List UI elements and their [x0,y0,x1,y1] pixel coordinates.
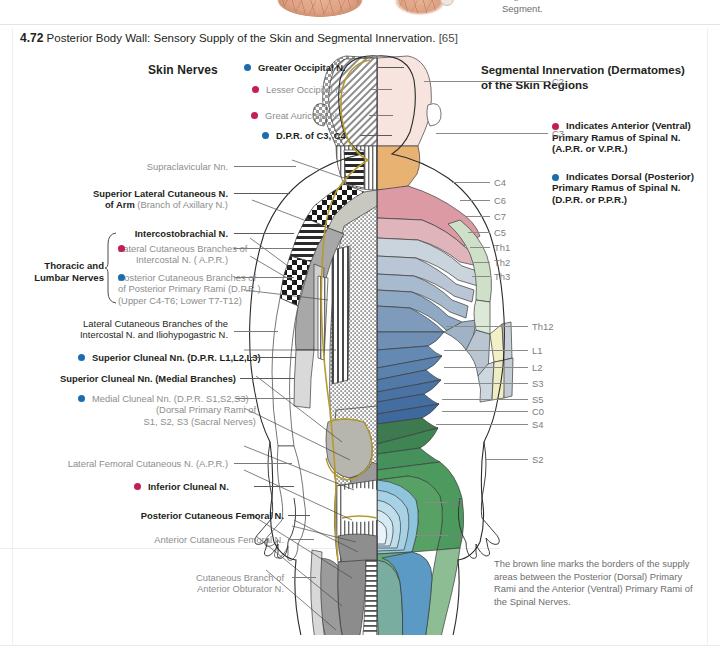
brown-line-note: The brown line marks the borders of the … [494,558,706,608]
ventral-dot [134,483,141,490]
leader-inferior-cluneal [254,486,294,487]
figure-number: 4.72 [20,31,43,45]
dermatome-label-c4: C4 [494,177,506,188]
label-inferior-cluneal-n: Inferior Cluneal N. [134,481,254,492]
dermatome-leader-s4 [436,424,528,425]
dermatome-leader-l4 [416,535,448,536]
dermatome-leader-c4 [452,182,490,183]
legend-item-dorsal: Indicates Dorsal (Posterior) Primary Ram… [552,171,712,206]
dermatome-label-th12: Th12 [532,321,553,332]
dermatome-label-th3: Th3 [494,271,510,282]
previous-figure-caption: Segments Below the 7th Thoracic Segment. [502,0,712,15]
leader-great-auricular [369,115,393,116]
dermatome-label-l1: L1 [532,345,542,356]
dermatome-leader-l1 [444,350,528,351]
dermatome-label-s2: S2 [532,454,543,465]
dermatome-leader-s3 [444,383,528,384]
label-lateral-femoral-cutaneous-n: Lateral Femoral Cutaneous N. (A.P.R.) [28,458,228,469]
leader-lateral-cut-intercostal [234,248,292,249]
dermatome-leader-c2 [424,81,548,82]
figure-title: Posterior Body Wall: Sensory Supply of t… [47,32,436,44]
label-lateral-cutaneous-branches-intercostal: Lateral Cutaneous Branches of Intercosta… [118,243,228,266]
label-cutaneous-branch-anterior-obturator-n: Cutaneous Branch of Anterior Obturator N… [28,572,284,595]
label-superior-lateral-cutaneous-n-of-arm: Superior Lateral Cutaneous N. of Arm (Br… [28,188,228,211]
dermatome-label-s5: S5 [532,394,543,405]
label-intercostobrachial-n: Intercostobrachial N. [28,228,228,239]
skin-nerves-heading: Skin Nerves [148,63,218,77]
label-sla-line2: of Arm (Branch of Axillary N.) [28,199,228,210]
page-frame-left [12,28,13,646]
label-superior-cluneal-nn-dpr: Superior Cluneal Nn. (D.P.R. L1,L2,L3) [78,352,258,363]
previous-caption-line2: Segment. [502,3,712,16]
leader-posterior-cut-femoral [288,515,310,516]
leader-iliohypogastric [234,331,278,332]
dermatome-label-s4: S4 [532,419,543,430]
label-greater-occipital-n: Greater Occipital N. [244,62,394,73]
dermatome-leader-c3 [436,133,548,134]
thoracic-lumbar-brace [104,232,118,308]
dermatome-label-l4: L4 [452,530,462,541]
dermatome-legend: Indicates Anterior (Ventral) Primary Ram… [552,120,712,218]
dermatome-label-c7: C7 [494,211,506,222]
leader-obturator [292,577,316,578]
dermatome-leader-th12 [446,326,528,327]
leader-posterior-cut-branches [234,277,294,278]
leader-superior-cluneal-medial [240,378,294,379]
dermatome-leader-l2 [444,367,528,368]
dermatome-label-c0: C0 [532,406,544,417]
figure-reference: [65] [439,32,458,44]
dermatome-leader-s5 [442,399,528,400]
label-supraclavicular-nn: Supraclavicular Nn. [28,161,228,172]
leader-lateral-femoral-cut [234,463,292,464]
dermatome-leader-c0 [442,411,528,412]
dermatome-leader-th1 [470,247,490,248]
dermatome-label-c2: C2 [552,76,564,87]
dermatome-label-s3: S3 [532,378,543,389]
dermatome-leader-th3 [472,276,490,277]
dermatome-leader-c5 [468,232,490,233]
ventral-dot [252,86,259,93]
footer-divider [0,645,720,646]
leader-dpr-c3-c4 [360,135,392,136]
leader-superior-lateral-cutaneous [234,193,290,194]
dorsal-dot [262,132,269,139]
leader-superior-cluneal [250,357,296,358]
label-posterior-cutaneous-branches-dpr: Posterior Cutaneous Branches of of Poste… [118,272,228,306]
label-medial-cluneal-nn: Medial Cluneal Nn. (D.P.R. S1,S2,S3) (Do… [78,393,258,427]
dorsal-dot [78,395,85,402]
leader-lesser-occipital [370,89,392,90]
dermatome-label-th2: Th2 [494,257,510,268]
leader-medial-cluneal [236,398,294,399]
dermatome-label-c5: C5 [494,227,506,238]
dorsal-dot [118,274,125,281]
ventral-dot [118,245,125,252]
dermatome-leader-c7 [466,216,490,217]
label-superior-cluneal-nn-medial: Superior Cluneal Nn. (Medial Branches) [28,373,236,384]
dermatome-label-c6: C6 [494,195,506,206]
leader-greater-occipital [378,67,404,68]
dermatome-leader-c6 [460,200,490,201]
dermatome-label-l2: L2 [532,362,542,373]
dermatome-leader-s2 [486,459,528,460]
label-lateral-cut-branches-iliohypogastric: Lateral Cutaneous Branches of the Interc… [28,318,228,341]
figure-heading: 4.72 Posterior Body Wall: Sensory Supply… [20,31,458,45]
leader-intercostobrachial [234,233,294,234]
dermatome-label-l3: L3 [452,497,462,508]
dermatome-label-th1: Th1 [494,242,510,253]
thoracic-lumbar-nerves-group-label: Thoracic and Lumbar Nerves [20,260,104,284]
dermatome-label-c3: C3 [552,128,564,139]
leader-supraclavicular [234,166,296,167]
ventral-dot [251,112,258,119]
leader-anterior-cut-femoral [288,539,314,540]
dorsal-dot [552,174,559,181]
label-anterior-cutaneous-femoral-n: Anterior Cutaneous Femoral N. [28,534,284,545]
dermatome-leader-l3 [424,502,448,503]
legend-item-ventral: Indicates Anterior (Ventral) Primary Ram… [552,120,712,155]
label-posterior-cutaneous-femoral-n: Posterior Cutaneous Femoral N. [28,510,284,521]
dorsal-dot [78,354,85,361]
dermatome-leader-th2 [472,262,490,263]
brain-gyri-texture [268,0,468,16]
header-divider [0,24,720,25]
dorsal-dot [244,64,251,71]
